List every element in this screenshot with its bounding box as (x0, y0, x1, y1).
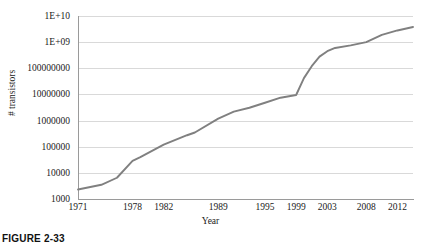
x-axis-tick-label: 1999 (287, 202, 306, 213)
gridline (78, 42, 413, 43)
x-axis-tick-label: 1978 (123, 202, 142, 213)
x-axis-tick-label: 1971 (69, 202, 88, 213)
plot-area (78, 16, 413, 199)
x-axis-tick-label: 1982 (154, 202, 173, 213)
y-axis-title: # transistors (7, 53, 17, 133)
figure-container: 1E+101E+09100000000100000001000000100000… (0, 0, 421, 245)
y-axis-line (78, 16, 79, 200)
y-axis-tick-label: 1000000 (37, 116, 70, 126)
y-axis-tick-label: 100000000 (27, 63, 70, 73)
x-axis-tick-label: 2012 (388, 202, 407, 213)
gridline (78, 147, 413, 148)
y-axis-tick-label: 100000 (42, 142, 71, 152)
y-axis-tick-label: 10000000 (32, 89, 70, 99)
figure-caption: FIGURE 2-33 (2, 233, 65, 244)
x-axis-title: Year (0, 216, 421, 226)
x-axis-line (78, 199, 414, 200)
y-axis-tick-label: 10000 (46, 168, 70, 178)
x-axis-tick-label: 1995 (255, 202, 274, 213)
y-axis-tick-label: 1E+10 (45, 11, 70, 21)
x-axis-tick-label: 2003 (318, 202, 337, 213)
gridline (78, 16, 413, 17)
y-axis-tick-label: 1000 (51, 194, 70, 204)
gridline (78, 173, 413, 174)
gridline (78, 68, 413, 69)
x-axis-tick-label: 2008 (357, 202, 376, 213)
gridline (78, 94, 413, 95)
y-axis-tick-label: 1E+09 (45, 37, 70, 47)
gridline (78, 121, 413, 122)
x-axis-tick-label: 1989 (209, 202, 228, 213)
